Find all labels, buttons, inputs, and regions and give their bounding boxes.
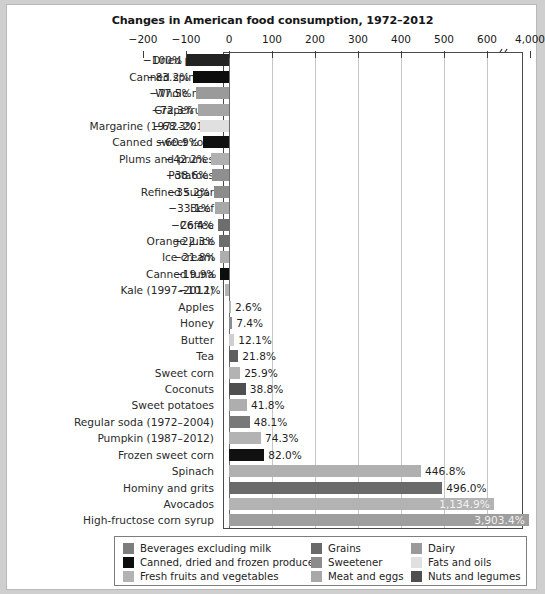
bar-row: Ice cream−21.8% xyxy=(7,249,538,265)
bar-row: Kale (1997–2012)−10.1% xyxy=(7,282,538,298)
bar-row: Canned spinach−83.2% xyxy=(7,68,538,84)
bar xyxy=(196,87,229,99)
bar xyxy=(229,334,234,346)
bar-value-label: −60.9% xyxy=(156,136,199,148)
bar-value-label: 446.8% xyxy=(425,465,465,477)
category-label: High-fructose corn syrup xyxy=(83,514,214,526)
bar xyxy=(212,169,229,181)
bar xyxy=(229,367,240,379)
category-label: Honey xyxy=(180,317,214,329)
legend-item[interactable]: Fats and oils xyxy=(411,555,521,569)
bar xyxy=(229,416,250,428)
bar-row: Butter12.1% xyxy=(7,331,538,347)
bar-value-label: 25.9% xyxy=(244,367,278,379)
bar xyxy=(229,432,261,444)
x-axis-tick-label: 4,000 xyxy=(515,33,545,45)
chart-figure: Changes in American food consumption, 19… xyxy=(6,4,537,590)
bar-value-label: −35.2% xyxy=(167,186,210,198)
legend-label: Fats and oils xyxy=(428,557,491,568)
bar-row: Apples2.6% xyxy=(7,299,538,315)
bar-row: Beef−33.1% xyxy=(7,200,538,216)
legend-label: Beverages excluding milk xyxy=(140,543,271,554)
category-label: Frozen sweet corn xyxy=(118,449,214,461)
bar-value-label: −22.3% xyxy=(173,235,216,247)
bar-row: Orange juice−22.3% xyxy=(7,233,538,249)
bar-value-label: 1,134.9% xyxy=(439,498,490,510)
bar xyxy=(219,235,229,247)
bar xyxy=(225,284,229,296)
bar-value-label: 74.3% xyxy=(265,432,299,444)
chart-legend: Beverages excluding milkCanned, dried an… xyxy=(114,536,527,586)
bar-row: Grapefruits−72.3% xyxy=(7,101,538,117)
category-label: Sweet potatoes xyxy=(132,399,214,411)
bar-value-label: −42.2% xyxy=(164,153,207,165)
bar-value-label: −77.5% xyxy=(149,87,192,99)
legend-item[interactable]: Grains xyxy=(311,541,403,555)
legend-item[interactable]: Beverages excluding milk xyxy=(123,541,314,555)
legend-label: Grains xyxy=(328,543,361,554)
bar-row: Whole milk−77.5% xyxy=(7,85,538,101)
bar xyxy=(218,219,229,231)
x-axis-tick-mark xyxy=(401,51,402,58)
legend-swatch-icon xyxy=(311,571,322,582)
legend-item[interactable]: Nuts and legumes xyxy=(411,569,521,583)
category-label: Sweet corn xyxy=(155,367,214,379)
category-label: Tea xyxy=(196,350,214,362)
bar-row: Coffee−26.4% xyxy=(7,216,538,232)
x-axis-tick-mark xyxy=(444,51,445,58)
legend-swatch-icon xyxy=(411,543,422,554)
bar xyxy=(198,104,229,116)
legend-item[interactable]: Sweetener xyxy=(311,555,403,569)
bar-value-label: 82.0% xyxy=(268,449,302,461)
legend-label: Canned, dried and frozen produce xyxy=(140,557,314,568)
legend-swatch-icon xyxy=(123,557,134,568)
x-axis-tick-mark xyxy=(487,51,488,58)
bar xyxy=(229,301,231,313)
bar-row: Avocados1,134.9% xyxy=(7,496,538,512)
bar xyxy=(229,383,246,395)
bar xyxy=(229,482,442,494)
x-axis-tick-mark xyxy=(229,51,230,58)
bar-value-label: 496.0% xyxy=(446,482,486,494)
legend-item[interactable]: Meat and eggs xyxy=(311,569,403,583)
legend-column: GrainsSweetenerMeat and eggs xyxy=(311,541,403,584)
legend-column: Beverages excluding milkCanned, dried an… xyxy=(123,541,314,584)
bar-value-label: −26.4% xyxy=(171,219,214,231)
bar-value-label: 2.6% xyxy=(235,301,262,313)
bar xyxy=(229,465,421,477)
x-axis-tick-label: 500 xyxy=(434,33,454,45)
bar-row: Regular soda (1972–2004)48.1% xyxy=(7,414,538,430)
bar-row: Tea21.8% xyxy=(7,348,538,364)
legend-label: Meat and eggs xyxy=(328,571,403,582)
bar-row: Pumpkin (1987–2012)74.3% xyxy=(7,430,538,446)
bar-value-label: 48.1% xyxy=(254,416,288,428)
x-axis-tick-mark xyxy=(186,51,187,58)
bar-value-label: −38.6% xyxy=(166,169,209,181)
bar-value-label: −33.1% xyxy=(168,202,211,214)
bar xyxy=(229,350,238,362)
category-label: Apples xyxy=(178,301,214,313)
bar-row: Refined sugar−35.2% xyxy=(7,184,538,200)
bar xyxy=(203,136,229,148)
legend-item[interactable]: Canned, dried and frozen produce xyxy=(123,555,314,569)
legend-column: DairyFats and oilsNuts and legumes xyxy=(411,541,521,584)
x-axis-tick-labels: −200−10001002003004005006004,000 xyxy=(7,33,538,48)
bar-value-label: 12.1% xyxy=(238,334,272,346)
bar-row: Canned sweet corn−60.9% xyxy=(7,134,538,150)
x-axis-tick-label: 600 xyxy=(477,33,497,45)
legend-label: Fresh fruits and vegetables xyxy=(140,571,279,582)
bar-row: Sweet corn25.9% xyxy=(7,364,538,380)
x-axis-tick-mark xyxy=(143,51,144,58)
x-axis-tick-label: 0 xyxy=(226,33,233,45)
bar-value-label: 3,903.4% xyxy=(474,514,525,526)
bar-row: Frozen sweet corn82.0% xyxy=(7,447,538,463)
bar-value-label: −83.2% xyxy=(147,71,190,83)
bar xyxy=(211,153,229,165)
bar xyxy=(229,399,247,411)
x-axis-tick-label: −100 xyxy=(172,33,201,45)
x-axis-tick-label: 400 xyxy=(391,33,411,45)
bar-row: Margarine (1972–2010)−68.3% xyxy=(7,118,538,134)
legend-item[interactable]: Fresh fruits and vegetables xyxy=(123,569,314,583)
legend-item[interactable]: Dairy xyxy=(411,541,521,555)
bar-value-label: 38.8% xyxy=(250,383,284,395)
